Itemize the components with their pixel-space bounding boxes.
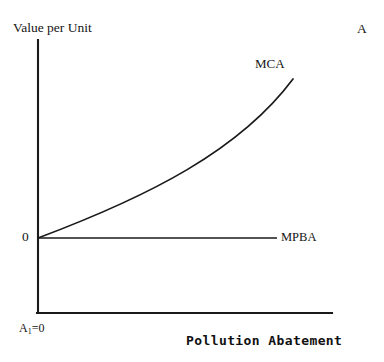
origin-label: 0 (22, 230, 29, 244)
mca-curve (38, 79, 293, 238)
abatement-zero-rest: =0 (32, 321, 45, 335)
chart-canvas (0, 0, 384, 362)
x-axis-title: Pollution Abatement (186, 334, 342, 347)
mca-curve-label: MCA (255, 57, 285, 70)
panel-letter-label: A (357, 22, 367, 36)
economics-figure-panel: Value per Unit 0 A1=0 MCA MPBA A Polluti… (0, 0, 384, 362)
abatement-zero-label: A1=0 (19, 322, 44, 336)
mpba-line-label: MPBA (281, 231, 316, 244)
y-axis-title: Value per Unit (13, 21, 92, 35)
abatement-zero-base: A (19, 321, 28, 335)
